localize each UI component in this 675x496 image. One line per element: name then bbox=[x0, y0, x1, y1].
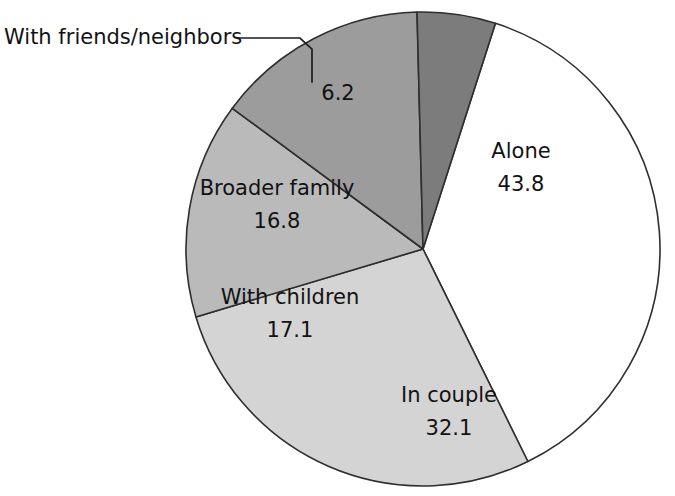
slice-value-broader-family: 16.8 bbox=[254, 209, 301, 233]
callout-label-with-friends-neighbors: With friends/neighbors bbox=[4, 25, 242, 49]
slice-value-with-friends-neighbors: 6.2 bbox=[321, 81, 354, 105]
slice-value-with-children: 17.1 bbox=[267, 318, 314, 342]
slice-label-with-children: With children bbox=[221, 285, 360, 309]
slice-label-in-couple: In couple bbox=[401, 383, 497, 407]
pie-chart-svg: With friends/neighbors 6.2 Broader famil… bbox=[0, 0, 675, 496]
pie-slices-render bbox=[186, 12, 660, 486]
slice-label-broader-family: Broader family bbox=[200, 176, 355, 200]
pie-chart-figure: With friends/neighbors 6.2 Broader famil… bbox=[0, 0, 675, 496]
slice-label-alone: Alone bbox=[491, 139, 550, 163]
slice-value-alone: 43.8 bbox=[498, 172, 545, 196]
slice-value-in-couple: 32.1 bbox=[426, 416, 473, 440]
